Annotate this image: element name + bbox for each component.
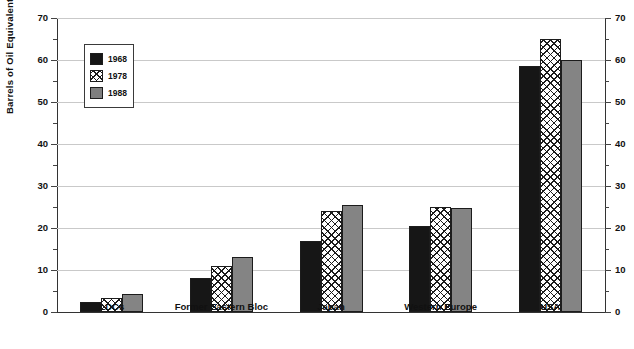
bar-chart: Barrels of Oil Equivalent 00101020203030… (0, 0, 634, 349)
legend-label-1988: 1988 (108, 88, 127, 98)
y-axis-left-label-40: 40 (37, 139, 48, 149)
chart-legend: 1968 1978 1988 (84, 44, 134, 108)
y-tick-60 (605, 60, 611, 61)
y-tick-minor-35 (605, 165, 609, 166)
y-axis-right-label-30: 30 (615, 181, 626, 191)
y-axis-left-label-50: 50 (37, 97, 48, 107)
bar (451, 208, 472, 312)
bar (430, 207, 451, 312)
bar-group (519, 18, 582, 312)
y-axis-left-line (57, 18, 58, 312)
legend-swatch-1988 (90, 87, 103, 99)
y-tick-50 (51, 102, 57, 103)
y-tick-minor-55 (53, 81, 57, 82)
y-axis-left-label-30: 30 (37, 181, 48, 191)
y-tick-70 (51, 18, 57, 19)
y-tick-10 (51, 270, 57, 271)
y-tick-30 (605, 186, 611, 187)
y-axis-left-label-10: 10 (37, 265, 48, 275)
x-axis-label-western-europe: Western Europe (386, 301, 496, 312)
bar (519, 66, 540, 312)
y-tick-minor-35 (53, 165, 57, 166)
bar (321, 211, 342, 312)
bar (561, 60, 582, 312)
y-tick-50 (605, 102, 611, 103)
y-tick-40 (605, 144, 611, 145)
y-axis-title-container: Barrels of Oil Equivalent (6, 18, 20, 312)
y-tick-20 (51, 228, 57, 229)
y-tick-minor-15 (53, 249, 57, 250)
y-tick-60 (51, 60, 57, 61)
bar (409, 226, 430, 312)
y-tick-20 (605, 228, 611, 229)
y-tick-minor-45 (605, 123, 609, 124)
plot-area: 001010202030304040505060607070 (57, 18, 605, 312)
bar-group (409, 18, 472, 312)
y-axis-left-label-70: 70 (37, 13, 48, 23)
y-axis-right-label-20: 20 (615, 223, 626, 233)
y-axis-left-label-60: 60 (37, 55, 48, 65)
y-axis-right-label-60: 60 (615, 55, 626, 65)
bar-group (300, 18, 363, 312)
y-tick-minor-25 (605, 207, 609, 208)
y-tick-0 (605, 312, 611, 313)
y-axis-right-label-50: 50 (615, 97, 626, 107)
legend-swatch-1968 (90, 53, 103, 65)
y-axis-title: Barrels of Oil Equivalent (4, 0, 15, 114)
y-tick-40 (51, 144, 57, 145)
x-axis-label-usa: USA (495, 301, 605, 312)
x-axis-label-japan: Japan (276, 301, 386, 312)
legend-item-1978: 1978 (90, 68, 129, 84)
y-axis-left-label-20: 20 (37, 223, 48, 233)
y-tick-70 (605, 18, 611, 19)
y-axis-right-label-70: 70 (615, 13, 626, 23)
x-axis-label-ldcs: LDCs (57, 301, 167, 312)
y-axis-right-label-0: 0 (615, 307, 620, 317)
y-tick-minor-65 (605, 39, 609, 40)
bar-group (190, 18, 253, 312)
legend-item-1968: 1968 (90, 51, 129, 67)
bar (540, 39, 561, 312)
y-tick-minor-25 (53, 207, 57, 208)
y-tick-minor-5 (605, 291, 609, 292)
y-tick-minor-45 (53, 123, 57, 124)
y-tick-10 (605, 270, 611, 271)
y-tick-minor-55 (605, 81, 609, 82)
y-tick-0 (51, 312, 57, 313)
bar (342, 205, 363, 312)
y-tick-minor-15 (605, 249, 609, 250)
y-axis-right-label-40: 40 (615, 139, 626, 149)
legend-label-1978: 1978 (108, 71, 127, 81)
legend-label-1968: 1968 (108, 54, 127, 64)
legend-swatch-1978 (90, 70, 103, 82)
y-axis-right-label-10: 10 (615, 265, 626, 275)
x-axis-line (57, 312, 605, 313)
y-tick-30 (51, 186, 57, 187)
y-tick-minor-65 (53, 39, 57, 40)
legend-item-1988: 1988 (90, 85, 129, 101)
x-axis-label-former-eastern-bloc: Former Eastern Bloc (167, 301, 277, 312)
y-tick-minor-5 (53, 291, 57, 292)
y-axis-left-label-0: 0 (43, 307, 48, 317)
